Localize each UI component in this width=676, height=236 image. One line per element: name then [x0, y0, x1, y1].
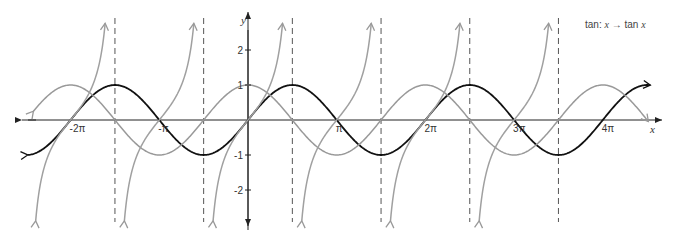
- trig-function-chart: 21-1-2-2π-ππ2π3π4π y x tan: x → tan x: [0, 0, 676, 236]
- axes: [22, 12, 662, 230]
- x-tick-label: 2π: [424, 123, 437, 134]
- x-tick-label: 3π: [513, 123, 526, 134]
- y-tick-label: 2: [237, 45, 243, 56]
- y-axis-label: y: [240, 14, 246, 26]
- x-axis-label: x: [649, 123, 655, 135]
- y-tick-label: -2: [234, 185, 243, 196]
- x-tick-label: π: [336, 123, 343, 134]
- function-annotation: tan: x → tan x: [585, 19, 646, 30]
- y-tick-label: 1: [237, 80, 243, 91]
- x-tick-label: 4π: [602, 123, 615, 134]
- x-tick-label: -2π: [70, 123, 86, 134]
- y-tick-label: -1: [234, 150, 243, 161]
- x-tick-label: -π: [158, 123, 168, 134]
